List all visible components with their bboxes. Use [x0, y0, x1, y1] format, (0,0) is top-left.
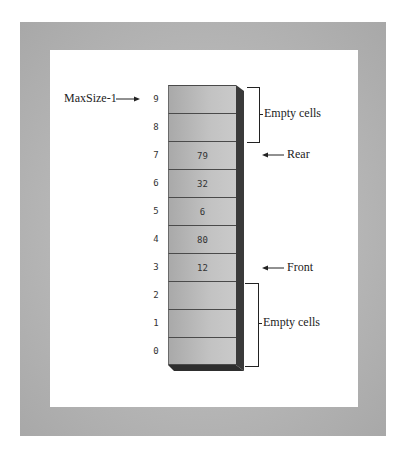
- empty-cells-label-bottom: Empty cells: [263, 315, 320, 330]
- index-label-7: 7: [150, 150, 162, 160]
- max-size-label: MaxSize-1: [64, 91, 117, 106]
- bracket-tick-top: [259, 114, 263, 115]
- index-label-8: 8: [150, 122, 162, 132]
- stack-3d-faces: [0, 0, 407, 454]
- index-label-6: 6: [150, 178, 162, 188]
- empty-cells-bracket-bottom: [245, 283, 259, 367]
- index-label-1: 1: [150, 318, 162, 328]
- bracket-tick-bottom: [258, 323, 262, 324]
- index-label-5: 5: [150, 206, 162, 216]
- index-label-2: 2: [150, 290, 162, 300]
- index-label-3: 3: [150, 262, 162, 272]
- index-label-9: 9: [150, 94, 162, 104]
- empty-cells-bracket-top: [247, 87, 260, 143]
- rear-label: Rear: [287, 147, 310, 162]
- front-label: Front: [287, 260, 313, 275]
- index-label-4: 4: [150, 234, 162, 244]
- index-label-0: 0: [150, 346, 162, 356]
- empty-cells-label-top: Empty cells: [264, 106, 321, 121]
